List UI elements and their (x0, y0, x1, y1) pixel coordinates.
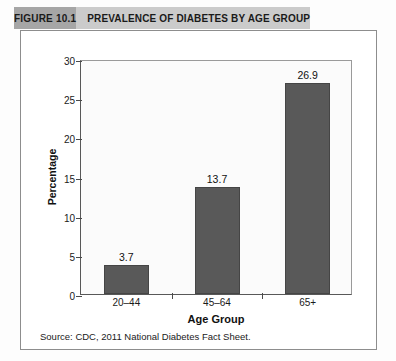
figure-number-block: FIGURE 10.1 (14, 7, 76, 29)
figure-body-box (20, 30, 377, 350)
figure-title-label: PREVALENCE OF DIABETES BY AGE GROUP (87, 13, 310, 24)
figure-header: FIGURE 10.1 PREVALENCE OF DIABETES BY AG… (14, 7, 310, 29)
figure-container: FIGURE 10.1 PREVALENCE OF DIABETES BY AG… (0, 0, 396, 361)
figure-title-block: PREVALENCE OF DIABETES BY AGE GROUP (76, 7, 310, 29)
figure-number-label: FIGURE 10.1 (14, 13, 76, 24)
